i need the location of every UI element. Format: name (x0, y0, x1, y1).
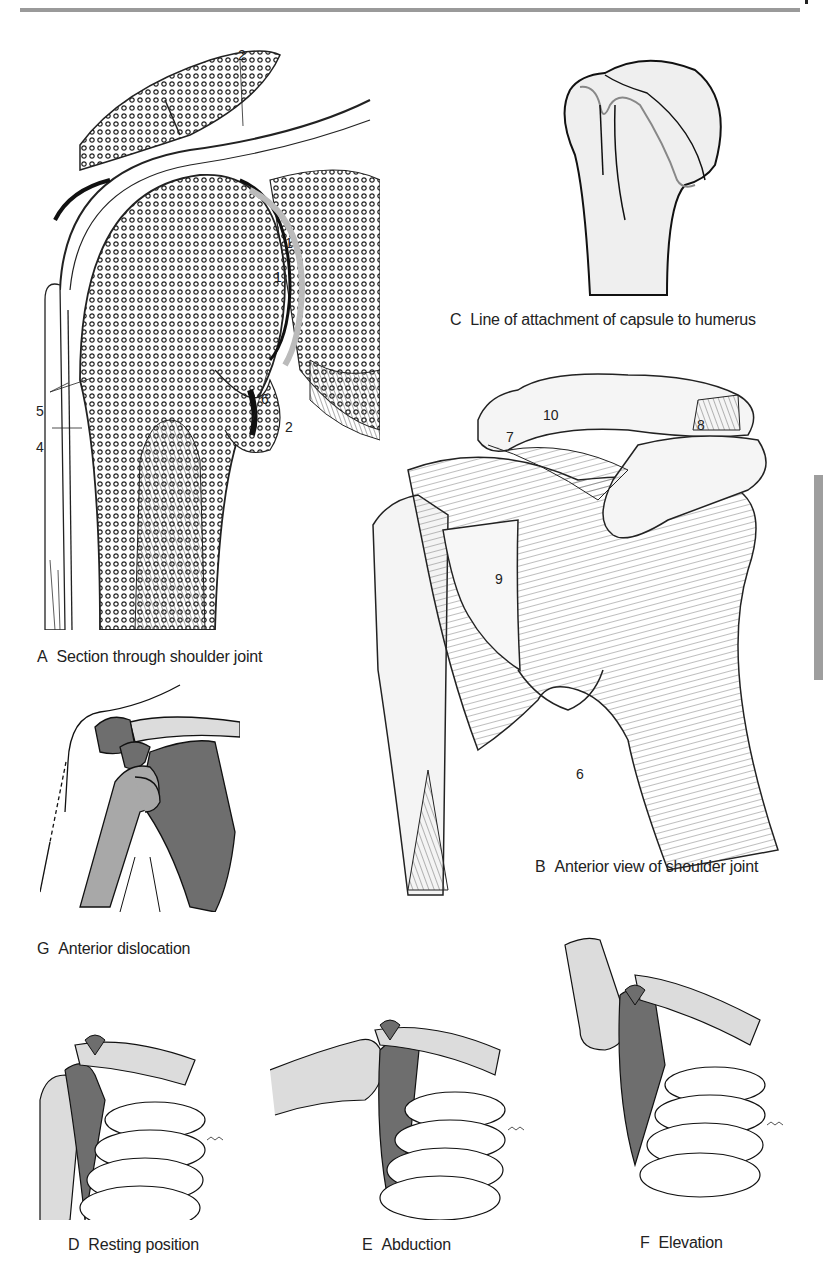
figure-b-anterior-illustration (368, 370, 788, 900)
label-b-9: 9 (495, 572, 503, 586)
caption-figure-f: FElevation (640, 1234, 723, 1252)
elevation-drawing (555, 935, 815, 1220)
caption-figure-b: BAnterior view of shoulder joint (535, 858, 758, 876)
anterior-dislocation-drawing (40, 682, 240, 912)
label-b-8: 8 (697, 418, 705, 432)
caption-letter: F (640, 1234, 650, 1252)
header-rule (20, 8, 800, 12)
caption-figure-e: EAbduction (362, 1236, 451, 1254)
figure-f-elevation-illustration (555, 935, 815, 1220)
caption-text: Anterior dislocation (58, 940, 190, 957)
humerus-capsule-drawing (555, 45, 735, 300)
caption-letter: A (37, 648, 47, 666)
caption-letter: G (37, 940, 49, 958)
label-a-6: 6 (261, 392, 269, 406)
label-b-10: 10 (543, 408, 559, 422)
caption-letter: B (535, 858, 545, 876)
figure-e-abduction-illustration (270, 990, 530, 1220)
page-corner-mark (805, 0, 808, 4)
caption-figure-c: CLine of attachment of capsule to humeru… (450, 311, 756, 329)
caption-text: Anterior view of shoulder joint (554, 858, 758, 875)
caption-text: Abduction (381, 1236, 450, 1253)
label-b-7: 7 (506, 430, 514, 444)
label-a-2-top: 2 (238, 48, 246, 62)
caption-figure-a: ASection through shoulder joint (37, 648, 262, 666)
caption-text: Line of attachment of capsule to humerus (470, 311, 756, 328)
resting-position-drawing (35, 1010, 235, 1220)
label-a-1-upper: 1 (285, 236, 293, 250)
label-a-2-bottom: 2 (285, 420, 293, 434)
section-thumb-tab (814, 475, 823, 680)
figure-a-section-illustration (40, 40, 380, 630)
caption-letter: E (362, 1236, 372, 1254)
label-a-4: 4 (36, 440, 44, 454)
caption-letter: D (68, 1236, 79, 1254)
caption-figure-g: GAnterior dislocation (37, 940, 190, 958)
caption-figure-d: DResting position (68, 1236, 199, 1254)
caption-text: Resting position (88, 1236, 199, 1253)
figure-d-resting-illustration (35, 1010, 235, 1220)
abduction-drawing (270, 990, 530, 1220)
caption-text: Elevation (659, 1234, 723, 1251)
figure-g-dislocation-illustration (40, 682, 240, 912)
label-a-5: 5 (36, 404, 44, 418)
caption-letter: C (450, 311, 461, 329)
label-a-1-lower: 1 (274, 270, 282, 284)
shoulder-anterior-drawing (368, 370, 788, 900)
label-b-6: 6 (576, 767, 584, 781)
caption-text: Section through shoulder joint (56, 648, 262, 665)
shoulder-section-drawing (40, 40, 380, 630)
figure-c-humerus-illustration (555, 45, 735, 300)
